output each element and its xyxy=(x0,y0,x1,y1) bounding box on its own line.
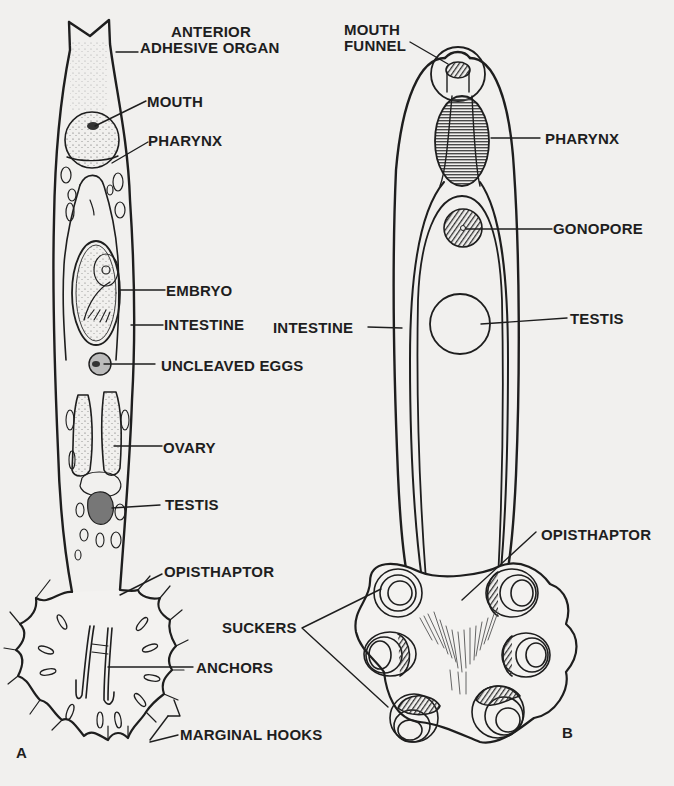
diagram-svg xyxy=(0,0,674,786)
label-mouth-funnel-line1: MOUTH xyxy=(344,22,400,37)
label-testis-a: TESTIS xyxy=(165,497,219,512)
label-ovary: OVARY xyxy=(163,440,216,455)
label-intestine-b: INTESTINE xyxy=(273,320,353,335)
label-opisthaptor-a: OPISTHAPTOR xyxy=(164,564,274,579)
label-pharynx-b: PHARYNX xyxy=(545,131,619,146)
panel-a-drawing xyxy=(4,20,188,740)
panel-letter-b: B xyxy=(562,724,573,741)
label-mouth-funnel-line2: FUNNEL xyxy=(344,38,406,53)
label-anterior-adhesive-organ-line2: ADHESIVE ORGAN xyxy=(140,40,280,55)
label-suckers: SUCKERS xyxy=(222,620,297,635)
label-testis-b: TESTIS xyxy=(570,311,624,326)
diagram-figure: ANTERIOR ADHESIVE ORGAN MOUTH PHARYNX EM… xyxy=(0,0,674,786)
label-intestine-a: INTESTINE xyxy=(164,317,244,332)
label-gonopore: GONOPORE xyxy=(553,221,643,236)
label-uncleaved-eggs: UNCLEAVED EGGS xyxy=(161,358,304,373)
label-embryo: EMBRYO xyxy=(166,283,232,298)
label-pharynx-a: PHARYNX xyxy=(148,133,222,148)
label-mouth-a: MOUTH xyxy=(147,94,203,109)
caption-bleed-through xyxy=(0,764,674,786)
label-anterior-adhesive-organ-line1: ANTERIOR xyxy=(171,24,251,39)
label-opisthaptor-b: OPISTHAPTOR xyxy=(541,527,651,542)
panel-b-drawing xyxy=(355,47,576,743)
panel-letter-a: A xyxy=(16,744,27,761)
label-marginal-hooks: MARGINAL HOOKS xyxy=(180,727,323,742)
label-anchors: ANCHORS xyxy=(196,660,273,675)
